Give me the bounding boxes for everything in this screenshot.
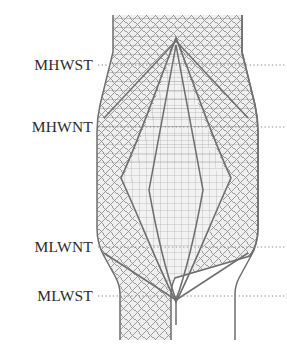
label-mhwnt: MHWNT [32,118,94,135]
inner-wedge-rules [90,131,270,169]
label-mlwnt: MLWNT [35,238,94,255]
label-mlwst: MLWST [37,287,93,304]
tide-labels-group: MHWST MHWNT MLWNT MLWST [32,56,94,304]
tidal-zonation-figure: MHWST MHWNT MLWNT MLWST [0,0,287,352]
label-mhwst: MHWST [34,56,93,73]
tidal-envelope-group [90,10,270,350]
tidal-diagram-svg: MHWST MHWNT MLWNT MLWST [0,0,287,352]
